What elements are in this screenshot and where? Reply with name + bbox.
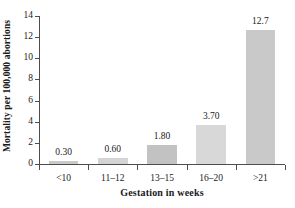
x-category-label: <10: [56, 174, 71, 184]
y-tick-mark: [35, 58, 39, 59]
bar-value-label: 1.80: [154, 132, 171, 142]
bar: [49, 161, 79, 164]
bar-value-label: 0.30: [55, 148, 72, 158]
y-tick-mark: [35, 79, 39, 80]
y-tick-mark: [35, 143, 39, 144]
bar: [246, 30, 276, 164]
bar-value-label: 0.60: [104, 145, 121, 155]
y-tick-label: 6: [28, 96, 33, 106]
bar: [196, 125, 226, 164]
bar-chart-figure: Mortality per 100,000 abortions 02468101…: [0, 0, 295, 208]
x-tick-mark: [88, 165, 89, 170]
y-tick-mark: [35, 122, 39, 123]
y-tick-mark: [35, 101, 39, 102]
bar: [98, 158, 128, 164]
y-tick-label: 14: [24, 11, 34, 21]
y-axis-line: [39, 16, 40, 164]
x-category-label: 13–15: [150, 174, 174, 184]
x-tick-mark: [187, 165, 188, 170]
y-tick-label: 10: [24, 54, 34, 64]
x-category-label: 16–20: [199, 174, 223, 184]
x-tick-mark: [236, 165, 237, 170]
y-tick-mark: [35, 16, 39, 17]
x-tick-mark: [285, 165, 286, 170]
bar-value-label: 12.7: [252, 17, 269, 27]
y-tick-mark: [35, 37, 39, 38]
x-axis-line: [39, 164, 285, 165]
x-tick-mark: [137, 165, 138, 170]
y-tick-label: 4: [28, 117, 33, 127]
y-tick-label: 2: [28, 138, 33, 148]
x-axis-title: Gestation in weeks: [39, 187, 285, 198]
y-tick-label: 12: [24, 32, 34, 42]
bar-value-label: 3.70: [203, 112, 220, 122]
y-tick-label: 8: [28, 75, 33, 85]
x-category-label: >21: [253, 174, 268, 184]
y-tick-label: 0: [28, 159, 33, 169]
x-tick-mark: [39, 165, 40, 170]
bar: [147, 145, 177, 164]
x-category-label: 11–12: [101, 174, 124, 184]
y-axis-title: Mortality per 100,000 abortions: [0, 0, 14, 172]
plot-area: 02468101214 0.300.601.803.7012.7 <1011–1…: [39, 16, 285, 164]
